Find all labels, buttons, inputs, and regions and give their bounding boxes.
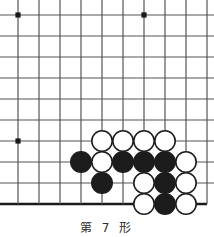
white-stone[interactable] xyxy=(134,131,154,151)
white-stone[interactable] xyxy=(113,131,133,151)
go-board-canvas[interactable] xyxy=(0,0,214,215)
black-stone[interactable] xyxy=(155,152,175,172)
star-point xyxy=(15,138,20,143)
white-stone[interactable] xyxy=(134,173,154,193)
black-stone[interactable] xyxy=(71,152,91,172)
black-stone[interactable] xyxy=(92,173,112,193)
black-stone[interactable] xyxy=(155,194,175,214)
white-stone[interactable] xyxy=(92,131,112,151)
white-stone[interactable] xyxy=(92,152,112,172)
go-problem-figure: 第 7 形 xyxy=(0,0,214,237)
white-stone[interactable] xyxy=(155,131,175,151)
white-stone[interactable] xyxy=(176,173,196,193)
black-stone[interactable] xyxy=(134,152,154,172)
figure-caption: 第 7 形 xyxy=(0,222,214,237)
white-stone[interactable] xyxy=(176,194,196,214)
star-point xyxy=(141,12,146,17)
black-stone[interactable] xyxy=(113,152,133,172)
white-stone[interactable] xyxy=(134,194,154,214)
white-stone[interactable] xyxy=(176,152,196,172)
go-board[interactable] xyxy=(0,0,214,215)
star-point xyxy=(15,12,20,17)
black-stone[interactable] xyxy=(155,173,175,193)
